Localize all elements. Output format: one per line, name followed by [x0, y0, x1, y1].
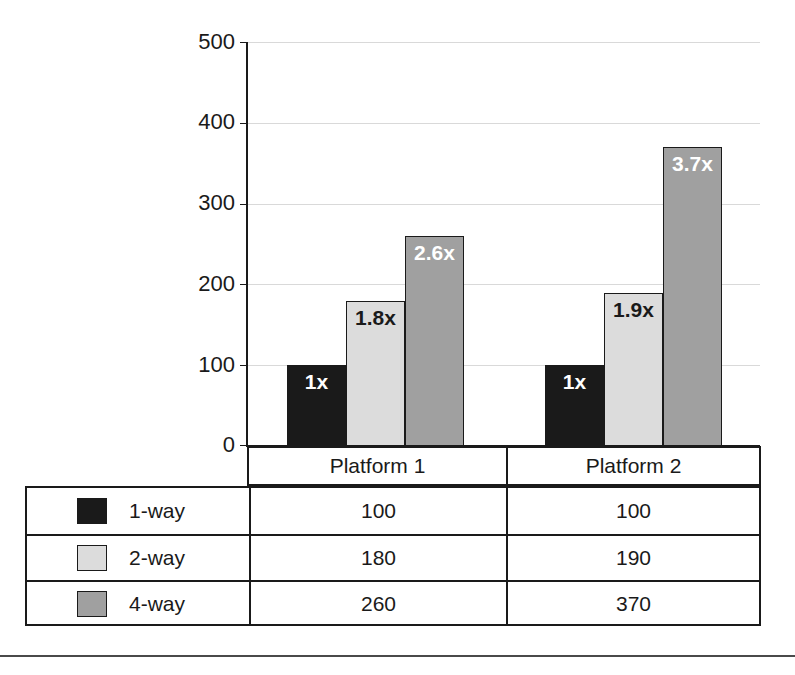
bar-label-platform1-1way: 1x	[288, 370, 345, 394]
y-tick-label-500: 500	[175, 31, 235, 53]
bar-chart-figure: Throughput 500 400 300 200 100 0 1x 1.8x…	[0, 0, 795, 675]
table-row: 1-way 100 100	[27, 488, 759, 534]
cell-1way-platform2: 100	[506, 488, 759, 534]
gridline-400	[248, 123, 760, 124]
legend-key-1way: 1-way	[27, 488, 249, 534]
bar-label-platform1-2way: 1.8x	[347, 306, 404, 330]
page-divider-rule	[0, 655, 795, 657]
bar-platform1-2way[interactable]: 1.8x	[346, 301, 405, 446]
bar-label-platform1-4way: 2.6x	[406, 241, 463, 265]
gridline-500	[248, 42, 760, 43]
cell-1way-platform1: 100	[249, 488, 506, 534]
cell-2way-platform1: 180	[249, 536, 506, 580]
legend-label-4way: 4-way	[129, 592, 185, 616]
bar-platform1-4way[interactable]: 2.6x	[405, 236, 464, 446]
plot-area: 1x 1.8x 2.6x 1x 1.9x 3.7x	[248, 42, 760, 446]
y-tick-label-100: 100	[175, 354, 235, 376]
y-tick-label-0: 0	[175, 434, 235, 456]
bar-label-platform2-4way: 3.7x	[664, 152, 721, 176]
table-row: 2-way 180 190	[27, 534, 759, 580]
category-header-platform1: Platform 1	[249, 448, 506, 484]
cell-4way-platform1: 260	[249, 582, 506, 626]
legend-key-4way: 4-way	[27, 582, 249, 626]
bar-platform1-1way[interactable]: 1x	[287, 365, 346, 446]
table-row: 4-way 260 370	[27, 580, 759, 626]
legend-swatch-2way	[77, 545, 107, 571]
bar-label-platform2-1way: 1x	[546, 370, 603, 394]
bar-platform2-2way[interactable]: 1.9x	[604, 293, 663, 446]
y-tick-label-200: 200	[175, 273, 235, 295]
y-tick-label-300: 300	[175, 192, 235, 214]
legend-label-2way: 2-way	[129, 546, 185, 570]
bar-platform2-1way[interactable]: 1x	[545, 365, 604, 446]
cell-4way-platform2: 370	[506, 582, 759, 626]
legend-label-1way: 1-way	[129, 499, 185, 523]
legend-data-table: 1-way 100 100 2-way 180 190 4-way 260 37…	[25, 486, 761, 626]
bar-label-platform2-2way: 1.9x	[605, 298, 662, 322]
cell-2way-platform2: 190	[506, 536, 759, 580]
legend-swatch-4way	[77, 591, 107, 617]
legend-key-2way: 2-way	[27, 536, 249, 580]
y-tick-label-400: 400	[175, 111, 235, 133]
legend-swatch-1way	[77, 498, 107, 524]
category-header-platform2: Platform 2	[508, 448, 759, 484]
bar-platform2-4way[interactable]: 3.7x	[663, 147, 722, 446]
category-header-row: Platform 1 Platform 2	[247, 446, 761, 486]
